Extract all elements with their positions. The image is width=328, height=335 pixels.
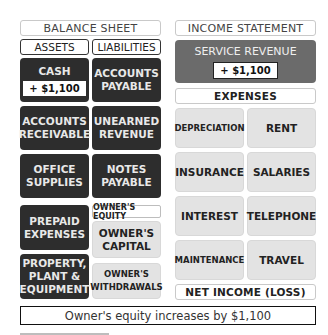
equity-label-line1: OWNER'S bbox=[104, 268, 149, 281]
asset-cash: CASH + $1,100 bbox=[20, 58, 89, 102]
asset-label-line1: OFFICE bbox=[33, 163, 75, 176]
cash-amount-badge: + $1,100 bbox=[23, 81, 85, 96]
expense-interest: INTEREST bbox=[175, 196, 244, 236]
equity-label-line1: OWNER'S bbox=[99, 227, 154, 240]
liability-label-line2: REVENUE bbox=[99, 128, 154, 141]
asset-office-supplies: OFFICE SUPPLIES bbox=[20, 154, 89, 198]
asset-label-line1: PREPAID bbox=[29, 215, 79, 228]
equity-label-line2: WITHDRAWALS bbox=[90, 281, 162, 294]
liability-label-line1: ACCOUNTS bbox=[94, 67, 159, 80]
expense-telephone: TELEPHONE bbox=[247, 196, 316, 236]
revenue-amount-badge: + $1,100 bbox=[213, 62, 277, 79]
expense-rent: RENT bbox=[247, 108, 316, 148]
asset-label-line3: EQUIPMENT bbox=[20, 283, 90, 296]
balance-sheet-header: BALANCE SHEET bbox=[20, 20, 161, 36]
asset-label-line2: PLANT & bbox=[29, 270, 80, 283]
liability-unearned-revenue: UNEARNED REVENUE bbox=[92, 106, 161, 150]
expense-depreciation: DEPRECIATION bbox=[175, 108, 244, 148]
equity-change-note: Owner's equity increases by $1,100 bbox=[20, 306, 316, 325]
asset-label-line1: ACCOUNTS bbox=[22, 115, 87, 128]
liabilities-header: LIABILITIES bbox=[92, 39, 161, 55]
expense-insurance: INSURANCE bbox=[175, 152, 244, 192]
asset-label-line2: EXPENSES bbox=[24, 228, 85, 241]
service-revenue-label: SERVICE REVENUE bbox=[194, 45, 296, 58]
service-revenue: SERVICE REVENUE + $1,100 bbox=[175, 40, 316, 83]
expense-salaries: SALARIES bbox=[247, 152, 316, 192]
asset-label-line1: PROPERTY, bbox=[22, 257, 86, 270]
liability-accounts-payable: ACCOUNTS PAYABLE bbox=[92, 58, 161, 102]
asset-label-line2: RECEIVABLE bbox=[19, 128, 90, 141]
expense-travel: TRAVEL bbox=[247, 240, 316, 280]
liability-label-line2: PAYABLE bbox=[101, 176, 151, 189]
liability-notes-payable: NOTES PAYABLE bbox=[92, 154, 161, 198]
equity-owners-withdrawals: OWNER'S WITHDRAWALS bbox=[92, 263, 161, 299]
asset-accounts-receivable: ACCOUNTS RECEIVABLE bbox=[20, 106, 89, 150]
owners-equity-header: OWNER'S EQUITY bbox=[92, 205, 161, 218]
asset-cash-label: CASH bbox=[38, 65, 70, 78]
income-statement-header: INCOME STATEMENT bbox=[175, 20, 316, 36]
equity-owners-capital: OWNER'S CAPITAL bbox=[92, 221, 161, 258]
liability-label-line1: UNEARNED bbox=[94, 115, 159, 128]
expense-maintenance: MAINTENANCE bbox=[175, 240, 244, 280]
net-income-header: NET INCOME (LOSS) bbox=[175, 284, 316, 300]
asset-label-line2: SUPPLIES bbox=[26, 176, 83, 189]
equity-label-line2: CAPITAL bbox=[102, 240, 151, 253]
liability-label-line2: PAYABLE bbox=[101, 80, 151, 93]
asset-prepaid-expenses: PREPAID EXPENSES bbox=[20, 205, 89, 250]
asset-property-plant-equipment: PROPERTY, PLANT & EQUIPMENT bbox=[20, 254, 89, 299]
liability-label-line1: NOTES bbox=[107, 163, 147, 176]
assets-header: ASSETS bbox=[20, 39, 89, 55]
expenses-header: EXPENSES bbox=[175, 88, 316, 104]
